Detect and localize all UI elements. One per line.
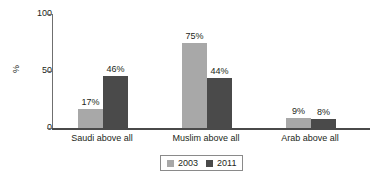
bar-2011-saudi[interactable]: 46% (103, 76, 128, 128)
y-tick-50: 50 (0, 66, 52, 75)
bar-value-label: 8% (317, 108, 330, 117)
legend-label: 2011 (217, 159, 236, 168)
bar-2011-arab[interactable]: 8% (311, 119, 336, 128)
bar-value-label: 9% (292, 107, 305, 116)
x-category-label-muslim: Muslim above all (147, 133, 265, 143)
legend-swatch-icon (167, 160, 174, 167)
bar-2011-muslim[interactable]: 44% (207, 78, 232, 128)
bar-value-label: 75% (185, 32, 203, 41)
plot-area: 17% 46% 75% 44% 9% 8% (52, 14, 370, 128)
bar-group-muslim: 75% 44% (182, 14, 232, 128)
y-tick-100: 100 (0, 9, 52, 18)
bar-2003-muslim[interactable]: 75% (182, 43, 207, 129)
bar-chart: % 100 50 0 17% 46% 75% 44% (0, 0, 377, 184)
bar-2003-saudi[interactable]: 17% (78, 109, 103, 128)
legend: 2003 2011 (160, 155, 243, 171)
bar-value-label: 46% (106, 65, 124, 74)
bar-value-label: 17% (81, 98, 99, 107)
x-axis-line (52, 128, 370, 130)
x-category-label-arab: Arab above all (251, 133, 369, 143)
legend-item-2011[interactable]: 2011 (206, 159, 236, 168)
legend-item-2003[interactable]: 2003 (167, 159, 198, 168)
legend-label: 2003 (178, 159, 198, 168)
legend-swatch-icon (206, 160, 213, 167)
x-category-label-saudi: Saudi above all (43, 133, 161, 143)
bar-2003-arab[interactable]: 9% (286, 118, 311, 128)
bar-group-saudi: 17% 46% (78, 14, 128, 128)
y-tick-0: 0 (0, 123, 52, 132)
bar-group-arab: 9% 8% (286, 14, 336, 128)
bar-value-label: 44% (210, 67, 228, 76)
